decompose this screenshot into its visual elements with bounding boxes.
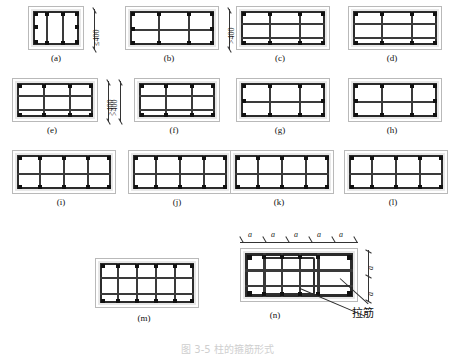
rebar	[268, 113, 272, 117]
section-f	[134, 78, 220, 122]
rebar	[321, 12, 325, 16]
rebar	[68, 113, 72, 117]
rebar	[154, 299, 158, 303]
panel-h: (h)	[348, 78, 448, 138]
rebar	[298, 292, 302, 296]
rebar	[380, 41, 384, 45]
rebar	[418, 156, 422, 160]
section-i	[12, 150, 116, 194]
inner-stirrup-leg	[299, 253, 301, 297]
rebar	[410, 84, 414, 88]
rebar	[325, 185, 329, 189]
rebar	[89, 84, 93, 88]
panel-caption-j: (j)	[122, 197, 232, 207]
rebar	[131, 27, 135, 31]
inner-stirrup-leg	[203, 155, 205, 189]
panel-caption-b: (b)	[119, 53, 219, 63]
rebar	[298, 255, 302, 259]
inner-stirrup-leg	[155, 263, 157, 303]
rebar	[107, 156, 111, 160]
inner-stirrup-leg	[245, 269, 353, 272]
rebar	[280, 292, 284, 296]
rebar	[154, 156, 158, 160]
dimension-label-b: >400	[227, 27, 236, 44]
rebar	[223, 185, 227, 189]
rebar	[268, 41, 272, 45]
rebar	[347, 291, 352, 296]
rebar	[86, 156, 90, 160]
rebar	[116, 299, 120, 303]
panel-n: a a a a a	[240, 248, 420, 333]
rebar	[62, 156, 66, 160]
section-a	[28, 6, 84, 50]
rebar	[354, 99, 358, 103]
rebar	[187, 41, 191, 45]
rebar	[247, 255, 252, 260]
rebar	[439, 185, 443, 189]
dimension-label-f: >400	[110, 99, 119, 116]
inner-stirrup-leg	[174, 263, 176, 303]
rebar	[164, 84, 168, 88]
inner-stirrup-leg	[139, 95, 215, 97]
dimension-label-a: ≤400	[92, 30, 101, 46]
rebar	[140, 84, 144, 88]
rebar	[38, 185, 42, 189]
rebar	[101, 299, 105, 303]
spacing-label-right-1: a	[366, 266, 375, 270]
inner-stirrup-leg	[299, 83, 301, 117]
rebar	[242, 113, 246, 117]
rebar	[298, 113, 302, 117]
inner-stirrup-leg	[349, 173, 443, 175]
outer-stirrup	[130, 11, 214, 45]
rebar	[439, 156, 443, 160]
inner-stirrup-leg	[269, 11, 271, 45]
rebar	[242, 12, 246, 16]
rebar	[75, 40, 79, 44]
section-m	[95, 258, 199, 308]
outer-stirrup	[353, 11, 437, 45]
rebar	[131, 41, 135, 45]
rebar	[135, 264, 139, 268]
inner-stirrup-leg	[353, 23, 437, 25]
rebar	[242, 84, 246, 88]
rebar	[107, 185, 111, 189]
rebar	[321, 113, 325, 117]
inner-stirrup-leg	[46, 11, 48, 45]
panel-caption-n: (n)	[185, 310, 365, 320]
inner-stirrup-leg	[419, 155, 421, 189]
rebar	[280, 185, 284, 189]
inner-stirrup-leg	[381, 11, 383, 45]
rebar	[380, 84, 384, 88]
rebar	[433, 99, 437, 103]
inner-stirrup-leg	[317, 253, 320, 297]
rebar	[298, 84, 302, 88]
rebar	[131, 12, 135, 16]
inner-stirrup-leg	[117, 263, 119, 303]
dimension-line-top	[240, 242, 358, 243]
inner-stirrup-leg	[395, 155, 397, 189]
rebar	[34, 25, 38, 29]
rebar	[394, 185, 398, 189]
rebar	[321, 84, 325, 88]
inner-stirrup-leg	[39, 155, 41, 189]
inner-stirrup-leg	[191, 83, 193, 117]
rebar	[34, 12, 38, 16]
rebar	[242, 41, 246, 45]
rebar	[410, 12, 414, 16]
panel-k: (k)	[230, 150, 340, 210]
inner-stirrup-leg	[411, 11, 413, 45]
rebar	[18, 185, 22, 189]
inner-stirrup-leg	[257, 155, 259, 189]
rebar	[42, 113, 46, 117]
panel-f: >400 (f)	[124, 78, 224, 138]
section-l	[344, 150, 448, 194]
inner-stirrup-leg	[235, 173, 329, 175]
rebar	[242, 99, 246, 103]
spacing-label-top-3: a	[294, 230, 298, 239]
rebar	[42, 84, 46, 88]
rebar	[280, 156, 284, 160]
rebar	[135, 299, 139, 303]
inner-stirrup-leg	[165, 83, 167, 117]
rebar	[410, 41, 414, 45]
inner-stirrup-leg	[62, 11, 64, 45]
